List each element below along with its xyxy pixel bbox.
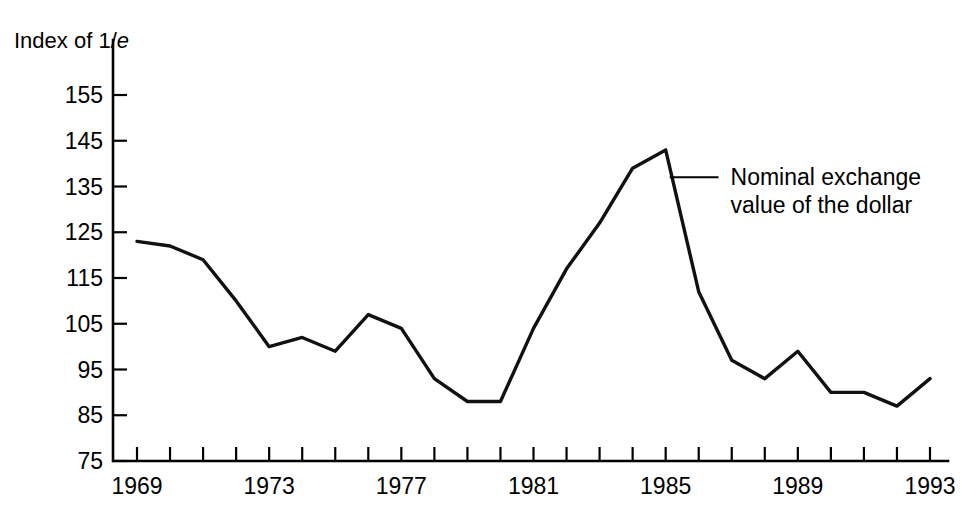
y-tick-label: 145 bbox=[65, 128, 103, 154]
x-tick-label: 1993 bbox=[904, 473, 955, 499]
axis-lines bbox=[113, 40, 948, 461]
x-tick-label: 1977 bbox=[376, 473, 427, 499]
axes-group bbox=[113, 40, 948, 461]
y-axis-title-prefix: Index of 1/ bbox=[14, 28, 118, 53]
x-tick-label: 1973 bbox=[244, 473, 295, 499]
y-tick-label: 115 bbox=[66, 265, 103, 291]
x-tick-label: 1989 bbox=[772, 473, 823, 499]
annotation-group: Nominal exchange value of the dollar bbox=[670, 164, 921, 218]
x-axis-ticks: 1969197319771981198519891993 bbox=[111, 447, 955, 499]
y-tick-label: 155 bbox=[65, 82, 103, 108]
y-tick-label: 105 bbox=[65, 311, 103, 337]
y-tick-label: 95 bbox=[77, 357, 103, 383]
y-tick-label: 125 bbox=[65, 219, 103, 245]
y-axis-title-italic: e bbox=[117, 28, 129, 53]
x-tick-label: 1969 bbox=[111, 473, 162, 499]
y-tick-label: 75 bbox=[77, 448, 103, 474]
x-tick-label: 1981 bbox=[508, 473, 559, 499]
y-tick-label: 85 bbox=[77, 402, 103, 428]
chart-container: Index of 1/e 758595105115125135145155 19… bbox=[0, 0, 961, 519]
annotation-line-1: Nominal exchange bbox=[731, 164, 922, 190]
y-tick-label: 135 bbox=[65, 174, 103, 200]
x-tick-label: 1985 bbox=[640, 473, 691, 499]
y-axis-ticks: 758595105115125135145155 bbox=[65, 82, 127, 474]
line-chart: Index of 1/e 758595105115125135145155 19… bbox=[0, 0, 961, 519]
annotation-line-2: value of the dollar bbox=[731, 192, 913, 218]
